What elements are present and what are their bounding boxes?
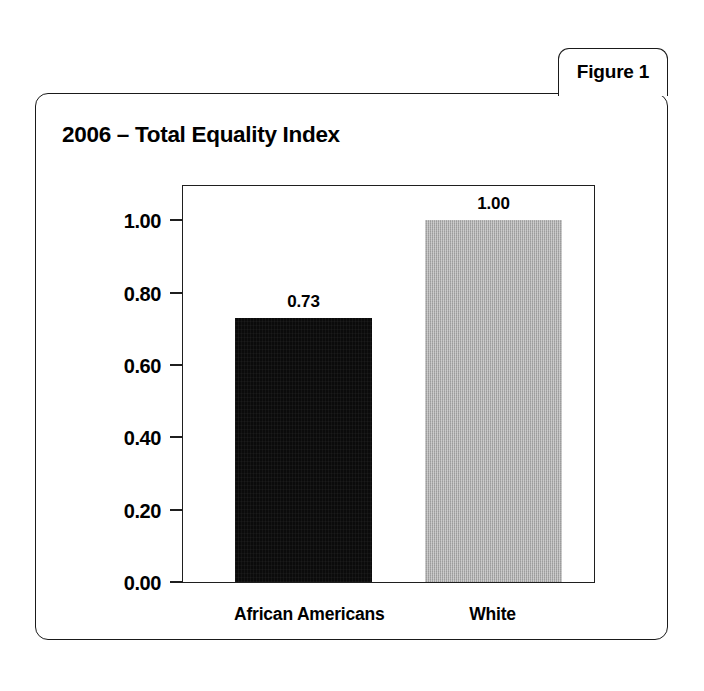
chart-plot-area: 0.00 0.20 0.40 0.60 0.80 1.00 0.73 1.00 bbox=[182, 185, 595, 583]
bar-african-americans bbox=[235, 318, 372, 582]
y-axis-tick-1: 0.20 bbox=[170, 509, 183, 511]
y-axis-tick-label-2: 0.40 bbox=[124, 427, 161, 450]
y-axis-tick-label-4: 0.80 bbox=[124, 282, 161, 305]
y-axis-tick-label-5: 1.00 bbox=[124, 210, 161, 233]
bar-value-label-white: 1.00 bbox=[425, 194, 562, 214]
chart-title: 2006 – Total Equality Index bbox=[62, 122, 340, 148]
plot-surface: 0.00 0.20 0.40 0.60 0.80 1.00 0.73 1.00 bbox=[183, 186, 594, 582]
figure-tab: Figure 1 bbox=[558, 48, 668, 96]
y-axis-tick-4: 0.80 bbox=[170, 292, 183, 294]
bar-white bbox=[425, 220, 562, 582]
y-axis-tick-label-1: 0.20 bbox=[124, 499, 161, 522]
y-axis-tick-3: 0.60 bbox=[170, 364, 183, 366]
x-axis-category-label-african-americans: African Americans bbox=[234, 604, 371, 625]
y-axis-tick-0: 0.00 bbox=[170, 581, 183, 583]
y-axis-tick-label-3: 0.60 bbox=[124, 354, 161, 377]
y-axis-tick-2: 0.40 bbox=[170, 436, 183, 438]
y-axis-tick-5: 1.00 bbox=[170, 219, 183, 221]
y-axis-tick-label-0: 0.00 bbox=[124, 572, 161, 595]
tab-card-seam bbox=[560, 91, 666, 96]
x-axis-category-label-white: White bbox=[424, 604, 561, 625]
bar-value-label-african-americans: 0.73 bbox=[235, 292, 372, 312]
figure-tab-label: Figure 1 bbox=[577, 62, 649, 81]
